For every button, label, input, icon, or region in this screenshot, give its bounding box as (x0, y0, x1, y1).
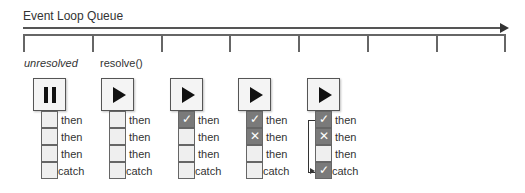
catch-cell (41, 162, 58, 179)
cell-label: catch (263, 165, 289, 177)
play-icon (250, 87, 263, 103)
connector-arrow-icon (310, 168, 315, 174)
promise-state-box (238, 78, 271, 111)
promise-state-box (101, 78, 134, 111)
cell-label: then (61, 114, 82, 126)
cell-label: then (335, 131, 356, 143)
timeline-tick (161, 34, 163, 52)
promise-5: ✓ then ✕ then then ✓ catch (307, 78, 427, 188)
then-cell-fulfilled: ✓ (246, 111, 263, 128)
cell-label: then (335, 114, 356, 126)
catch-cell (246, 162, 263, 179)
then-cell-rejected: ✕ (315, 128, 332, 145)
timeline-tick (92, 34, 94, 52)
then-cell (41, 111, 58, 128)
then-cell (109, 128, 126, 145)
timeline-tick (23, 34, 25, 52)
arrow-head-icon (500, 23, 509, 33)
timeline-tick (298, 34, 300, 52)
then-cell-rejected: ✕ (246, 128, 263, 145)
cell-label: catch (58, 165, 84, 177)
catch-cell-fulfilled: ✓ (315, 162, 332, 179)
cell-label: then (129, 131, 150, 143)
catch-cell (178, 162, 195, 179)
cell-label: catch (332, 165, 358, 177)
cell-label: catch (126, 165, 152, 177)
timeline-axis (23, 34, 506, 36)
cell-label: then (198, 131, 219, 143)
play-icon (319, 87, 332, 103)
error-skip-connector (308, 120, 315, 173)
timeline-tick (229, 34, 231, 52)
promise-state-box (33, 78, 66, 111)
then-cell (178, 145, 195, 162)
then-cell-skipped (315, 145, 332, 162)
then-cell (41, 145, 58, 162)
play-icon (113, 87, 126, 103)
then-cell-fulfilled: ✓ (178, 111, 195, 128)
then-cell (109, 111, 126, 128)
then-cell (41, 128, 58, 145)
promise-state-box (170, 78, 203, 111)
cell-label: then (129, 148, 150, 160)
label-unresolved: unresolved (24, 57, 78, 69)
cell-label: then (129, 114, 150, 126)
then-cell-fulfilled: ✓ (315, 111, 332, 128)
cell-label: catch (195, 165, 221, 177)
catch-cell (109, 162, 126, 179)
cell-label: then (61, 131, 82, 143)
cell-label: then (335, 148, 356, 160)
cell-label: then (266, 131, 287, 143)
cell-label: then (266, 114, 287, 126)
then-cell (109, 145, 126, 162)
cell-label: then (266, 148, 287, 160)
play-icon (182, 87, 195, 103)
timeline-tick (504, 34, 506, 52)
event-loop-arrow (23, 27, 503, 29)
promise-state-box (307, 78, 340, 111)
then-cell (246, 145, 263, 162)
cell-label: then (198, 114, 219, 126)
label-resolve: resolve() (100, 57, 143, 69)
then-cell (178, 128, 195, 145)
diagram-title: Event Loop Queue (23, 9, 123, 23)
timeline-tick (367, 34, 369, 52)
pause-icon (44, 87, 56, 103)
cell-label: then (198, 148, 219, 160)
cell-label: then (61, 148, 82, 160)
timeline-tick (436, 34, 438, 52)
